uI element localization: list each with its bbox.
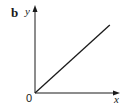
x-axis-label: x bbox=[113, 93, 119, 103]
y-axis-arrow-icon bbox=[33, 5, 38, 12]
panel-label: b bbox=[11, 5, 18, 20]
origin-label: 0 bbox=[26, 92, 32, 103]
chart: b y 0 x bbox=[0, 0, 128, 103]
series-line-linear bbox=[35, 25, 110, 93]
y-axis-label: y bbox=[24, 5, 30, 17]
series-layer bbox=[35, 25, 110, 93]
